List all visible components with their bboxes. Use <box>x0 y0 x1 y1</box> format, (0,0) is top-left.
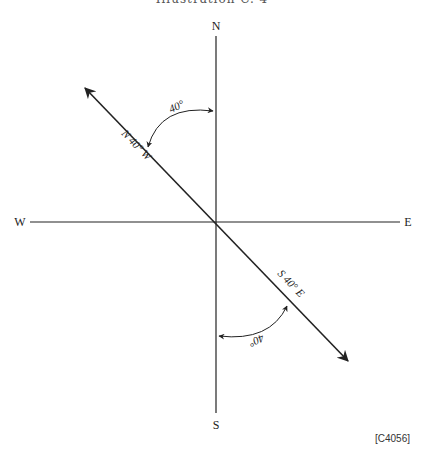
angle-label-north: 40° <box>167 97 187 115</box>
label-south: S <box>213 418 220 432</box>
bearing-label-s40e: S 40° E <box>276 267 308 299</box>
label-west: W <box>14 215 26 229</box>
bearing-label-n40w: N 40° W <box>119 126 155 163</box>
reference-code: [C4056] <box>375 433 410 444</box>
compass-diagram: N S W E 40° 40° N 40° W S 40° E <box>0 0 424 458</box>
angle-arc-north <box>148 110 213 147</box>
label-north: N <box>212 19 221 33</box>
angle-arc-south <box>219 306 287 337</box>
label-east: E <box>404 215 411 229</box>
